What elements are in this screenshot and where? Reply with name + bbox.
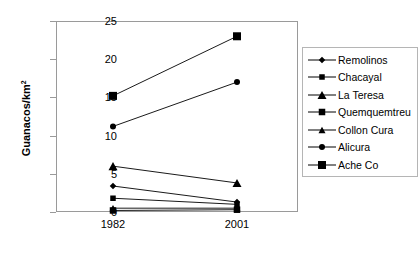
legend-item-ache-co[interactable]: Ache Co [303,156,417,174]
legend-label: Collon Cura [338,124,393,136]
y-tick-mark [50,136,56,137]
plot-area [56,21,298,212]
legend-item-chacayal[interactable]: Chacayal [303,69,417,87]
y-tick-label: 20 [57,53,117,65]
y-tick-label: 15 [57,91,117,103]
legend-label: Remolinos [338,54,388,66]
legend-marker-icon [307,52,337,68]
legend-marker-icon [307,87,337,103]
legend-item-remolinos[interactable]: Remolinos [303,51,417,69]
legend-marker-icon [307,157,337,173]
y-tick-mark [50,97,56,98]
guanacos-density-chart: Guanacos/km2 0510152025 19822001 Remolin… [0,0,420,264]
y-tick-label: 0 [57,206,117,218]
y-axis-title: Guanacos/km2 [20,48,33,188]
y-axis-title-text: Guanacos/km [20,84,32,156]
y-axis-title-superscript: 2 [20,80,27,84]
y-tick-mark [50,174,56,175]
x-tick-label: 2001 [207,218,267,230]
y-tick-label: 25 [57,15,117,27]
legend: RemolinosChacayalLa TeresaQuemquemtreuCo… [302,47,418,177]
legend-item-la-teresa[interactable]: La Teresa [303,86,417,104]
legend-label: Ache Co [338,159,378,171]
legend-label: Alicura [338,141,370,153]
legend-marker-icon [307,69,337,85]
legend-label: La Teresa [338,89,384,101]
legend-item-collon-cura[interactable]: Collon Cura [303,121,417,139]
legend-item-alicura[interactable]: Alicura [303,139,417,157]
y-tick-mark [50,212,56,213]
y-tick-mark [50,21,56,22]
legend-marker-icon [307,139,337,155]
legend-marker-icon [307,122,337,138]
legend-label: Quemquemtreu [338,106,411,118]
legend-item-quemquemtreu[interactable]: Quemquemtreu [303,104,417,122]
x-tick-label: 1982 [83,218,143,230]
y-tick-label: 10 [57,130,117,142]
y-tick-label: 5 [57,168,117,180]
legend-marker-icon [307,104,337,120]
legend-item-list: RemolinosChacayalLa TeresaQuemquemtreuCo… [303,51,417,174]
y-tick-mark [50,59,56,60]
legend-label: Chacayal [338,71,382,83]
